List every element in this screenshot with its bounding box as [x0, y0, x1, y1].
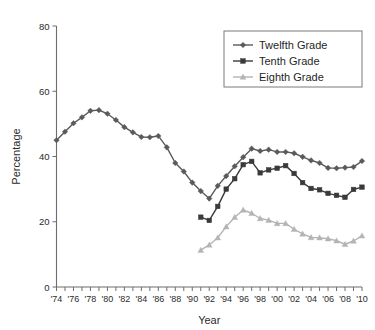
data-point-marker: [198, 247, 204, 252]
y-tick-label: 80: [39, 21, 50, 32]
data-point-marker: [207, 218, 212, 223]
x-tick-label: '10: [356, 294, 368, 304]
data-point-marker: [249, 159, 254, 164]
y-tick-label: 20: [39, 216, 50, 227]
series-layer: [54, 107, 365, 252]
x-tick-label: '88: [169, 294, 181, 304]
data-point-marker: [232, 176, 237, 181]
x-tick-label: '04: [305, 294, 317, 304]
data-point-marker: [334, 193, 339, 198]
data-point-marker: [215, 204, 220, 209]
data-point-marker: [360, 185, 365, 190]
y-axis-title: Percentage: [10, 128, 22, 184]
data-point-marker: [283, 163, 288, 168]
series-line: [201, 210, 362, 250]
data-point-marker: [308, 158, 314, 164]
data-point-marker: [351, 238, 357, 243]
series-eighth-grade: [198, 207, 365, 252]
data-point-marker: [139, 134, 145, 140]
data-point-marker: [283, 149, 289, 155]
x-axis-title: Year: [198, 314, 221, 326]
data-point-marker: [224, 187, 229, 192]
data-point-marker: [275, 166, 280, 171]
data-point-marker: [147, 134, 153, 140]
data-point-marker: [241, 59, 246, 64]
data-point-marker: [317, 187, 322, 192]
data-point-marker: [359, 233, 365, 238]
x-tick-label: '76: [68, 294, 80, 304]
data-point-marker: [292, 171, 297, 176]
x-tick-label: '98: [254, 294, 266, 304]
x-tick-label: '90: [186, 294, 198, 304]
x-tick-label: '96: [237, 294, 249, 304]
data-point-marker: [241, 162, 246, 167]
y-tick-label: 60: [39, 86, 50, 97]
data-point-marker: [300, 180, 305, 185]
x-tick-label: '86: [152, 294, 164, 304]
data-point-marker: [343, 195, 348, 200]
series-line: [57, 110, 363, 198]
data-point-marker: [266, 168, 271, 173]
x-tick-label: '02: [288, 294, 300, 304]
x-tick-label: '06: [322, 294, 334, 304]
y-tick-label: 0: [44, 282, 49, 293]
data-point-marker: [342, 165, 348, 171]
legend-item-label: Eighth Grade: [259, 71, 324, 83]
x-tick-label: '84: [135, 294, 147, 304]
x-tick-label: '94: [220, 294, 232, 304]
data-point-marker: [240, 207, 246, 212]
chart-container: 020406080 '74'76'78'80'82'84'86'88'90'92…: [0, 0, 375, 330]
x-tick-label: '74: [51, 294, 63, 304]
data-point-marker: [300, 154, 306, 160]
x-tick-label: '92: [203, 294, 215, 304]
data-point-marker: [274, 149, 280, 155]
x-tick-label: '08: [339, 294, 351, 304]
data-point-marker: [266, 147, 272, 153]
data-point-marker: [325, 165, 331, 171]
data-point-marker: [300, 231, 306, 236]
line-chart: 020406080 '74'76'78'80'82'84'86'88'90'92…: [0, 0, 375, 330]
data-point-marker: [326, 191, 331, 196]
data-point-marker: [258, 171, 263, 176]
x-tick-label: '78: [85, 294, 97, 304]
data-point-marker: [334, 165, 340, 171]
data-point-marker: [257, 148, 263, 154]
y-tick-label: 40: [39, 151, 50, 162]
data-point-marker: [96, 107, 102, 113]
y-axis: 020406080: [39, 21, 57, 293]
legend-item-label: Tenth Grade: [259, 55, 320, 67]
x-tick-label: '82: [119, 294, 131, 304]
legend-item-label: Twelfth Grade: [259, 39, 327, 51]
data-point-marker: [198, 215, 203, 220]
x-axis: '74'76'78'80'82'84'86'88'90'92'94'96'98'…: [51, 287, 368, 304]
data-point-marker: [351, 187, 356, 192]
chart-legend: Twelfth GradeTenth GradeEighth Grade: [224, 31, 362, 87]
data-point-marker: [317, 160, 323, 166]
x-tick-label: '00: [271, 294, 283, 304]
x-tick-label: '80: [102, 294, 114, 304]
data-point-marker: [309, 186, 314, 191]
data-point-marker: [291, 150, 297, 156]
